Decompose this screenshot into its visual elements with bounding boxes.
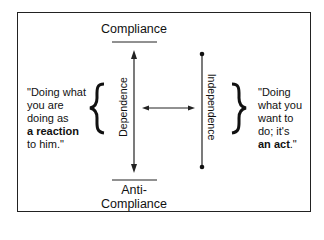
left-quote-line: to him." xyxy=(27,138,86,151)
right-brace-icon xyxy=(232,84,246,133)
independence-label: Independence xyxy=(206,72,218,142)
left-quote-line: "Doing what xyxy=(27,86,86,99)
right-quote-line: want to xyxy=(258,112,302,125)
dot-top-icon xyxy=(200,52,205,57)
anti-compliance-label: Anti- Compliance xyxy=(98,183,170,211)
right-quote: "Doing what you want to do; it's an act.… xyxy=(258,86,302,151)
right-quote-line: what you xyxy=(258,99,302,112)
left-quote-emphasis: a reaction xyxy=(27,125,79,137)
right-quote-end: ." xyxy=(290,138,297,150)
right-quote-emphasis: an act xyxy=(258,138,290,150)
right-quote-line: do; it's xyxy=(258,125,302,138)
anti-compliance-line1: Anti- xyxy=(98,183,170,197)
arrow-left-icon xyxy=(142,106,149,111)
right-quote-line: an act." xyxy=(258,138,302,151)
left-quote-line: you are xyxy=(27,99,86,112)
arrow-up-icon xyxy=(131,50,137,59)
left-quote-line: doing as xyxy=(27,112,86,125)
left-brace-icon xyxy=(90,84,104,133)
left-quote-line: a reaction xyxy=(27,125,86,138)
arrow-right-icon xyxy=(188,106,195,111)
left-quote: "Doing what you are doing as a reaction … xyxy=(27,86,86,151)
arrow-down-icon xyxy=(131,164,137,173)
anti-compliance-line2: Compliance xyxy=(98,197,170,211)
dot-bottom-icon xyxy=(200,165,205,170)
compliance-label: Compliance xyxy=(98,22,170,36)
right-quote-line: "Doing xyxy=(258,86,302,99)
dependence-label: Dependence xyxy=(117,72,129,142)
